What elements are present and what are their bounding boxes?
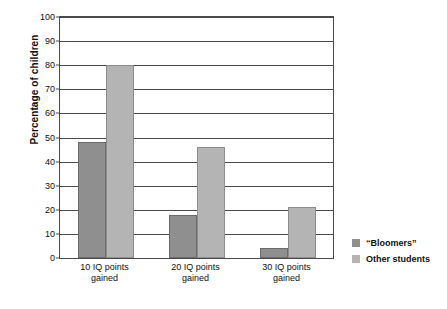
y-tick-label-60: 60: [45, 108, 55, 118]
x-axis-label-line2: gained: [241, 273, 332, 284]
legend-swatch-icon-1: [352, 255, 360, 263]
plot-area: 0102030405060708090100: [59, 16, 334, 259]
x-axis-label-line1: 10 IQ points: [80, 262, 129, 272]
bar-series-container: [60, 17, 333, 258]
x-axis-label-2: 30 IQ pointsgained: [241, 262, 332, 284]
y-tick-label-80: 80: [45, 60, 55, 70]
chart-figure: Percentage of children 01020304050607080…: [0, 0, 447, 309]
legend-item-1[interactable]: Other students: [352, 252, 444, 266]
gridline-0: [60, 258, 333, 259]
x-axis-label-0: 10 IQ pointsgained: [59, 262, 150, 284]
bar-group-1-series-0: [169, 215, 197, 258]
x-axis-label-line1: 20 IQ points: [171, 262, 220, 272]
bar-group-0-series-1: [106, 65, 134, 258]
chart-legend: “Bloomers”Other students: [352, 236, 444, 268]
bar-group-0-series-0: [78, 142, 106, 258]
legend-label-1: Other students: [366, 254, 430, 264]
y-tick-label-90: 90: [45, 36, 55, 46]
x-axis-label-1: 20 IQ pointsgained: [150, 262, 241, 284]
x-axis-labels: 10 IQ pointsgained20 IQ pointsgained30 I…: [59, 262, 334, 302]
y-tick-label-40: 40: [45, 157, 55, 167]
y-axis-title: Percentage of children: [29, 10, 40, 170]
y-tick-label-70: 70: [45, 84, 55, 94]
y-tick-label-100: 100: [40, 12, 55, 22]
y-tick-label-0: 0: [50, 253, 55, 263]
x-axis-label-line2: gained: [59, 273, 150, 284]
legend-label-0: “Bloomers”: [366, 238, 417, 248]
x-axis-label-line1: 30 IQ points: [262, 262, 311, 272]
x-axis-label-line2: gained: [150, 273, 241, 284]
y-tick-label-10: 10: [45, 229, 55, 239]
legend-item-0[interactable]: “Bloomers”: [352, 236, 444, 250]
bar-group-2-series-1: [288, 207, 316, 258]
y-tick-label-20: 20: [45, 205, 55, 215]
bar-group-2-series-0: [260, 248, 288, 258]
y-tick-label-30: 30: [45, 181, 55, 191]
y-tick-label-50: 50: [45, 133, 55, 143]
bar-group-1-series-1: [197, 147, 225, 258]
legend-swatch-icon-0: [352, 239, 360, 247]
